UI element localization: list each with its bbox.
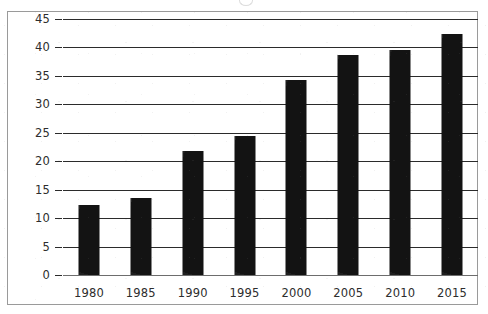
bar-slot-1995: 1995 [219, 19, 271, 275]
y-tick-mark-40 [55, 47, 62, 48]
y-axis-label-10: 10 [35, 211, 50, 225]
y-tick-mark-5 [55, 247, 62, 248]
y-axis-label-35: 35 [35, 69, 50, 83]
bar-2010[interactable] [390, 50, 411, 275]
y-axis-label-20: 20 [35, 154, 50, 168]
y-tick-mark-35 [55, 76, 62, 77]
y-tick-mark-20 [55, 161, 62, 162]
bar-slot-1990: 1990 [167, 19, 219, 275]
bar-2005[interactable] [338, 55, 359, 275]
x-axis-label-2015: 2015 [437, 286, 467, 300]
bar-slot-2000: 2000 [271, 19, 323, 275]
gridline-0 [63, 275, 478, 276]
y-tick-mark-15 [55, 190, 62, 191]
y-axis-label-15: 15 [35, 183, 50, 197]
scan-artifact-glyph [239, 0, 253, 6]
x-axis-label-1985: 1985 [126, 286, 156, 300]
bar-1985[interactable] [130, 198, 151, 275]
y-tick-mark-25 [55, 133, 62, 134]
x-axis-label-2000: 2000 [281, 286, 311, 300]
bar-2000[interactable] [286, 80, 307, 275]
bar-slot-2005: 2005 [322, 19, 374, 275]
x-axis-label-2010: 2010 [385, 286, 415, 300]
bar-2015[interactable] [442, 34, 463, 275]
bar-1980[interactable] [78, 205, 99, 275]
bar-1995[interactable] [234, 136, 255, 275]
y-axis-label-40: 40 [35, 40, 50, 54]
x-axis-label-1990: 1990 [178, 286, 208, 300]
y-tick-mark-0 [55, 275, 62, 276]
y-axis-label-45: 45 [35, 12, 50, 26]
y-axis-label-0: 0 [42, 268, 50, 282]
y-axis-label-30: 30 [35, 97, 50, 111]
y-axis-label-25: 25 [35, 126, 50, 140]
plot-area: 051015202530354045 198019851990199520002… [63, 19, 478, 275]
y-tick-mark-10 [55, 218, 62, 219]
chart-screenshot: 051015202530354045 198019851990199520002… [0, 0, 488, 314]
bar-1990[interactable] [182, 151, 203, 275]
bar-slot-1985: 1985 [115, 19, 167, 275]
x-axis-label-2005: 2005 [333, 286, 363, 300]
bar-group: 19801985199019952000200520102015 [63, 19, 478, 275]
x-axis-label-1980: 1980 [74, 286, 104, 300]
y-axis-label-5: 5 [42, 240, 50, 254]
bar-slot-2010: 2010 [374, 19, 426, 275]
bar-slot-2015: 2015 [426, 19, 478, 275]
y-tick-mark-30 [55, 104, 62, 105]
y-tick-mark-45 [55, 19, 62, 20]
bar-slot-1980: 1980 [63, 19, 115, 275]
x-axis-label-1995: 1995 [230, 286, 260, 300]
